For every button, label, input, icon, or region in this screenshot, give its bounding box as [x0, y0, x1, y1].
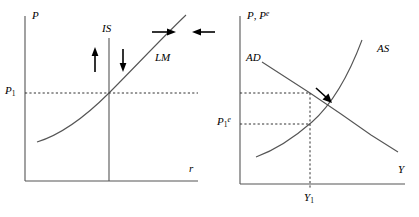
y1-label: Y1: [304, 192, 314, 205]
right-y-axis-label-p: P: [247, 9, 254, 21]
figure-canvas: [0, 0, 419, 217]
right-y-axis-label-comma: ,: [254, 9, 257, 21]
economics-figure: P r P1 IS LM P, Pe Y AD AS P1e Y1: [0, 0, 419, 217]
as-curve: [256, 40, 362, 157]
p1-label-base: P: [5, 84, 12, 96]
left-x-axis-label: r: [189, 163, 193, 174]
right-y-axis-label-pe: P: [259, 9, 266, 21]
p1e-label: P1e: [217, 116, 231, 129]
y1-label-sub: 1: [310, 196, 314, 205]
as-curve-label: AS: [377, 43, 389, 54]
right-y-axis-label: P, Pe: [247, 10, 269, 21]
ad-curve-label: AD: [246, 52, 261, 63]
right-x-axis-label: Y: [398, 164, 404, 175]
p1-label-sub: 1: [12, 89, 16, 98]
lm-curve: [37, 15, 186, 142]
adjustment-arrow-icon: [316, 88, 332, 103]
p1-label: P1: [5, 85, 15, 98]
p1e-label-sup: e: [227, 115, 230, 124]
right-arrow-icon: [152, 29, 176, 36]
left-arrow-icon: [192, 29, 215, 36]
is-lm-axes: [25, 16, 198, 181]
left-y-axis-label: P: [32, 10, 39, 21]
lm-curve-label: LM: [155, 52, 170, 63]
p1e-label-base: P: [217, 115, 224, 127]
up-arrow-icon: [92, 47, 99, 72]
is-curve-label: IS: [102, 23, 111, 34]
ad-curve: [262, 62, 398, 152]
down-arrow-icon: [120, 49, 127, 72]
right-y-axis-label-pe-sup: e: [266, 9, 269, 18]
